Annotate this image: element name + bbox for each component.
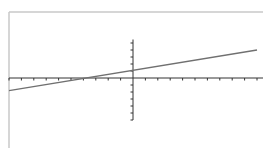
line-chart bbox=[0, 0, 263, 148]
plot-frame bbox=[9, 12, 263, 148]
y-axis bbox=[131, 40, 134, 121]
x-axis bbox=[9, 78, 263, 81]
